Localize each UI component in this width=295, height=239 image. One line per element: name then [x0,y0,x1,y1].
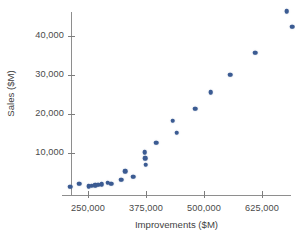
data-point [142,150,147,155]
data-point [119,178,124,183]
data-point [143,162,148,167]
data-point [99,182,104,187]
scatter-plot-figure: 10,00020,00030,00040,000 250,000375,0005… [0,0,295,239]
y-tick-label: 40,000 [2,30,64,40]
x-tick [204,191,205,198]
x-tick-label: 625,000 [245,203,279,213]
data-point [228,72,233,77]
data-point [253,51,258,56]
x-tick [88,191,89,198]
y-tick-label: 10,000 [2,147,64,157]
data-point [290,24,295,29]
x-tick-label: 250,000 [71,203,105,213]
y-tick [68,36,75,37]
data-point [174,130,179,135]
x-tick-label: 375,000 [129,203,163,213]
x-axis-label: Improvements ($M) [62,219,291,230]
data-point [284,9,289,14]
data-point [193,106,198,111]
x-tick [262,191,263,198]
data-point [171,118,176,123]
y-tick [68,75,75,76]
data-point [131,175,136,180]
data-point [143,156,148,161]
y-tick [68,153,75,154]
data-point [77,182,82,187]
y-tick [68,114,75,115]
data-point [68,185,73,190]
x-tick-label: 500,000 [187,203,221,213]
data-point [154,141,159,146]
y-axis-line [71,12,72,195]
x-tick [146,191,147,198]
data-point [109,182,114,187]
data-point [123,169,128,174]
data-point [208,90,213,95]
y-axis-label: Sales ($M) [5,59,16,129]
x-axis-line [62,195,291,196]
